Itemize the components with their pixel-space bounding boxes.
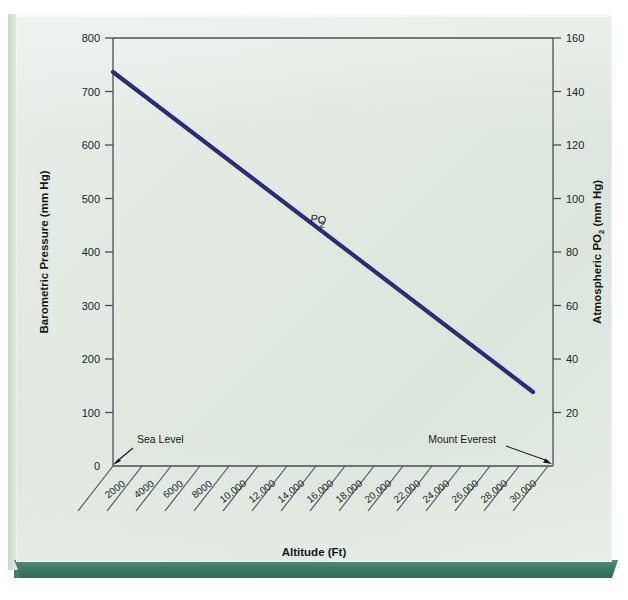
series-po2 bbox=[113, 72, 533, 392]
y-axis-right: 160 140 120 100 80 60 40 20 bbox=[553, 32, 584, 419]
y-tick-right: 100 bbox=[553, 193, 584, 205]
y-axis-right-title-prefix: Atmospheric P bbox=[591, 243, 603, 324]
y-tick-right: 160 bbox=[553, 32, 584, 44]
x-tick-label: 28,000 bbox=[478, 477, 509, 505]
y-tick-left-label: 200 bbox=[82, 353, 100, 365]
y-tick-right-label: 120 bbox=[566, 139, 584, 151]
y-tick-left: 800 bbox=[82, 32, 113, 44]
x-tick-label: 18,000 bbox=[333, 477, 364, 505]
x-tick-label: 20,000 bbox=[362, 477, 393, 505]
x-tick-label: 6000 bbox=[161, 478, 186, 501]
y-tick-left-label: 300 bbox=[82, 300, 100, 312]
x-tick-label: 26,000 bbox=[449, 477, 480, 505]
y-tick-left-label: 800 bbox=[82, 32, 100, 44]
y-axis-left: 800 700 600 500 400 300 200 100 0 bbox=[82, 32, 113, 472]
y-axis-right-title: Atmospheric PO2 (mm Hg) bbox=[591, 180, 606, 324]
y-tick-left: 300 bbox=[82, 300, 113, 312]
x-axis-title: Altitude (Ft) bbox=[282, 546, 347, 558]
x-axis-labels: 2000 4000 6000 8000 10,000 12,000 14,000… bbox=[103, 477, 539, 505]
y-tick-right-label: 160 bbox=[566, 32, 584, 44]
plot-area: 800 700 600 500 400 300 200 100 0 160 bbox=[0, 0, 628, 600]
y-tick-left-label: 0 bbox=[94, 460, 100, 472]
y-axis-right-title-suffix: (mm Hg) bbox=[591, 180, 603, 230]
x-tick-label: 16,000 bbox=[304, 477, 335, 505]
y-tick-left: 200 bbox=[82, 353, 113, 365]
y-tick-right-label: 20 bbox=[566, 407, 578, 419]
y-tick-left: 0 bbox=[94, 460, 100, 472]
annotation-sea-level: Sea Level bbox=[113, 433, 184, 465]
y-tick-right-label: 100 bbox=[566, 193, 584, 205]
y-tick-left-label: 500 bbox=[82, 193, 100, 205]
y-tick-left: 100 bbox=[82, 407, 113, 419]
series-label-po2: PO 2 bbox=[309, 212, 327, 230]
annotation-mount-everest-text: Mount Everest bbox=[428, 433, 496, 445]
svg-text:Atmospheric PO2 (mm Hg): Atmospheric PO2 (mm Hg) bbox=[591, 180, 606, 324]
y-axis-right-title-sub: O bbox=[591, 234, 603, 243]
x-tick-label: 12,000 bbox=[246, 477, 277, 505]
x-tick-label: 10,000 bbox=[217, 477, 248, 505]
y-tick-right: 20 bbox=[553, 407, 578, 419]
x-tick-label: 2000 bbox=[103, 478, 128, 501]
y-tick-left: 700 bbox=[82, 86, 113, 98]
x-tick-label: 24,000 bbox=[420, 477, 451, 505]
chart-figure: 800 700 600 500 400 300 200 100 0 160 bbox=[0, 0, 628, 600]
x-tick-label: 4000 bbox=[132, 478, 157, 501]
y-tick-right-label: 80 bbox=[566, 246, 578, 258]
y-tick-left: 600 bbox=[82, 139, 113, 151]
y-tick-right: 80 bbox=[553, 246, 578, 258]
y-tick-right: 40 bbox=[553, 353, 578, 365]
y-tick-right-label: 60 bbox=[566, 300, 578, 312]
series-label-subscript: 2 bbox=[319, 219, 325, 230]
y-axis-left-title: Barometric Pressure (mm Hg) bbox=[38, 170, 50, 333]
chart-svg: 800 700 600 500 400 300 200 100 0 160 bbox=[0, 0, 628, 600]
y-tick-right: 120 bbox=[553, 139, 584, 151]
y-tick-right: 60 bbox=[553, 300, 578, 312]
y-tick-left: 500 bbox=[82, 193, 113, 205]
x-tick-label: 14,000 bbox=[275, 477, 306, 505]
annotation-mount-everest: Mount Everest bbox=[428, 433, 552, 464]
y-tick-left-label: 700 bbox=[82, 86, 100, 98]
y-tick-right-label: 140 bbox=[566, 86, 584, 98]
y-tick-left-label: 100 bbox=[82, 407, 100, 419]
y-tick-left-label: 400 bbox=[82, 246, 100, 258]
y-tick-left: 400 bbox=[82, 246, 113, 258]
y-tick-left-label: 600 bbox=[82, 139, 100, 151]
x-tick-label: 8000 bbox=[190, 478, 215, 501]
y-tick-right: 140 bbox=[553, 86, 584, 98]
x-tick-label: 30,000 bbox=[507, 477, 538, 505]
y-tick-right-label: 40 bbox=[566, 353, 578, 365]
axis-lines bbox=[113, 38, 553, 466]
annotation-sea-level-text: Sea Level bbox=[137, 433, 184, 445]
x-tick-label: 22,000 bbox=[391, 477, 422, 505]
